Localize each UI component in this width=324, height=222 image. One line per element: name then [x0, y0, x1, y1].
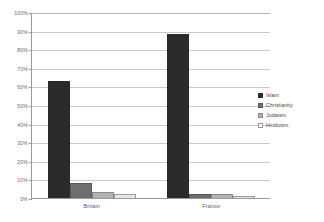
xtick-label-france: France: [152, 203, 272, 209]
legend-item-hinduism[interactable]: Hinduism: [258, 120, 316, 130]
ytick-label-100: 100%: [14, 10, 28, 16]
ytick-label-80: 80%: [17, 47, 28, 53]
bar-britain-christianity[interactable]: [70, 183, 92, 198]
bar-britain-islam[interactable]: [48, 81, 70, 198]
legend-item-islam[interactable]: Islam: [258, 90, 316, 100]
legend-item-judaism[interactable]: Judaism: [258, 110, 316, 120]
ytick-label-60: 60%: [17, 84, 28, 90]
bar-group-france: France: [152, 13, 272, 198]
chart-legend: IslamChristianityJudaismHinduism: [258, 90, 316, 130]
ytick-label-70: 70%: [17, 66, 28, 72]
ytick-label-90: 90%: [17, 29, 28, 35]
legend-swatch-judaism-icon: [258, 113, 263, 118]
bar-britain-hinduism[interactable]: [114, 194, 136, 198]
legend-label-christianity: Christianity: [266, 102, 293, 108]
bar-france-islam[interactable]: [167, 34, 189, 198]
ytick-label-20: 20%: [17, 159, 28, 165]
ytick-label-10: 10%: [17, 177, 28, 183]
bar-group-britain: Britain: [32, 13, 152, 198]
bar-france-hinduism[interactable]: [233, 196, 255, 198]
bar-france-christianity[interactable]: [189, 194, 211, 198]
plot-area: 100% 90% 80% 70% 60% 50% 40% 30% 20% 10%…: [31, 13, 270, 199]
bars-layer: BritainFrance: [32, 13, 270, 198]
xtick-label-britain: Britain: [32, 203, 152, 209]
legend-label-hinduism: Hinduism: [266, 122, 288, 128]
bar-britain-judaism[interactable]: [92, 192, 114, 198]
legend-swatch-hinduism-icon: [258, 123, 263, 128]
legend-item-christianity[interactable]: Christianity: [258, 100, 316, 110]
legend-swatch-islam-icon: [258, 93, 263, 98]
ytick-label-50: 50%: [17, 103, 28, 109]
ytick-label-30: 30%: [17, 140, 28, 146]
ytick-label-0: 0%: [20, 196, 28, 202]
legend-label-islam: Islam: [266, 92, 279, 98]
ytick-label-40: 40%: [17, 122, 28, 128]
bar-chart: 100% 90% 80% 70% 60% 50% 40% 30% 20% 10%…: [0, 0, 324, 222]
legend-swatch-christianity-icon: [258, 103, 263, 108]
legend-label-judaism: Judaism: [266, 112, 286, 118]
bar-france-judaism[interactable]: [211, 194, 233, 198]
ytick-mark-0: [29, 199, 32, 200]
